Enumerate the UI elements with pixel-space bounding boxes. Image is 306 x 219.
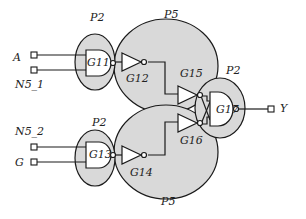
label-input-g: G [15, 156, 24, 169]
label-input-a: A [12, 51, 21, 64]
label-p2-right: P2 [225, 64, 240, 77]
label-output-y: Y [280, 102, 289, 115]
label-g11: G11 [87, 56, 110, 69]
input-pin-n5-1 [31, 67, 37, 73]
label-g13: G13 [89, 148, 112, 161]
label-g17: G17 [216, 103, 239, 116]
input-pin-n5-2 [31, 144, 37, 150]
circuit-diagram: P2 P5 P2 P2 P5 A N5_1 N5_2 G Y G11 G12 G… [0, 0, 306, 219]
label-p5-top: P5 [163, 8, 178, 21]
input-pin-g [31, 159, 37, 165]
output-pin-y [268, 106, 274, 112]
label-p5-bottom: P5 [160, 195, 175, 208]
label-input-n5-2: N5_2 [14, 125, 44, 138]
input-pin-a [31, 52, 37, 58]
label-g12: G12 [126, 72, 149, 85]
label-g16: G16 [180, 134, 203, 147]
label-g14: G14 [130, 166, 153, 179]
label-input-n5-1: N5_1 [14, 78, 44, 91]
label-g15: G15 [180, 67, 203, 80]
label-p2-top: P2 [89, 11, 104, 24]
label-p2-bottom: P2 [91, 116, 106, 129]
